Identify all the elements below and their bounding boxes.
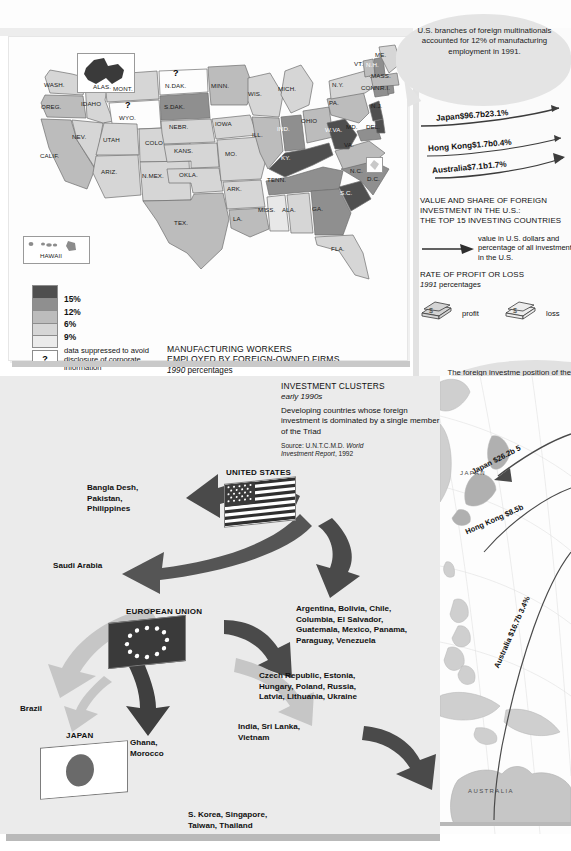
state-label-conn: CONN.: [361, 84, 381, 91]
state-label-mich: MICH.: [278, 85, 296, 92]
state-miss: [267, 195, 289, 231]
state-label-okla: OKLA.: [179, 171, 198, 178]
clusters-heading: INVESTMENT CLUSTERS: [281, 381, 441, 391]
legend-swatches: [32, 285, 58, 348]
svg-text:$: $: [513, 307, 517, 314]
state-label-ky: KY.: [281, 154, 290, 161]
state-label-del: DEL.: [366, 123, 380, 130]
value-share-block: VALUE AND SHARE OF FOREIGN INVESTMENT IN…: [420, 196, 571, 270]
clusters-source-italic2: Investment Report: [281, 450, 335, 457]
state-label-ala: ALA.: [282, 206, 296, 213]
state-suppressed-ndak: ?: [173, 68, 179, 78]
key-arrow-icon: [422, 242, 476, 256]
profit-loss-year: 1991 percentages: [420, 280, 571, 289]
state-label-pa: PA.: [329, 99, 339, 106]
state-label-wva: W.VA.: [325, 126, 342, 133]
map-caption-year: 1990 percentages: [167, 365, 397, 376]
flow-value-australia: $7.1b: [467, 161, 489, 172]
state-label-wis: WIS.: [248, 90, 262, 97]
loss-label: loss: [546, 309, 560, 318]
svg-text:$: $: [429, 307, 433, 314]
state-label-dc: D.C.: [367, 175, 380, 182]
profit-loss-heading: RATE OF PROFIT OR LOSS: [420, 270, 571, 279]
state-label-miss: MISS.: [258, 206, 275, 213]
us-map-graphic: ALAS. HAWAII: [9, 37, 409, 307]
dest-south-asia: India, Sri Lanka,Vietnam: [238, 722, 300, 743]
profit-loss-key-row: $ profit $ loss: [420, 299, 571, 329]
legend-swatch-12: [32, 298, 58, 311]
flow-share-hongkong: 0.4%: [493, 138, 512, 148]
state-label-mont: MONT.: [113, 85, 133, 92]
state-label-wyo: WYO.: [119, 114, 136, 121]
state-label-nc: N.C.: [350, 167, 363, 174]
suppressed-legend-text: data suppressed to avoid disclosure of c…: [64, 347, 169, 373]
legend-labels: 15% 12% 6% 9%: [64, 293, 81, 343]
map-caption-line1: MANUFACTURING WORKERS: [167, 344, 397, 354]
state-label-calif: CALIF.: [40, 152, 59, 159]
state-label-nh: N.H.: [366, 61, 379, 68]
us-flag-graphic: [225, 477, 295, 526]
state-label-me: ME.: [375, 51, 386, 58]
state-label-hawaii: HAWAII: [40, 252, 62, 259]
clusters-period: early 1990s: [281, 392, 441, 401]
us-map-panel: ALAS. HAWAII: [8, 36, 408, 361]
flow-value-hongkong: $1.7b: [472, 139, 494, 150]
arrow-us-to-saudi: [122, 514, 312, 594]
value-share-line1: VALUE AND SHARE OF FOREIGN: [420, 196, 571, 206]
state-label-utah: UTAH: [103, 136, 120, 143]
node-title-japan: JAPAN: [66, 731, 94, 740]
legend-label-1: 12%: [64, 306, 81, 319]
state-label-nmex: N.MEX.: [142, 172, 164, 179]
state-label-sdak: S.DAK.: [164, 103, 185, 110]
node-title-united-states: UNITED STATES: [226, 468, 291, 477]
legend-swatch-15: [32, 285, 58, 298]
legend-label-3: 9%: [64, 331, 81, 344]
dc-shape: [367, 158, 382, 172]
dest-east-asia: S. Korea, Singapore,Taiwan, Thailand: [188, 810, 267, 831]
flow-arrow-australia-head: [553, 153, 565, 164]
state-ala: [287, 193, 313, 233]
flow-arrow-japan-head: [551, 105, 559, 112]
state-label-la: LA.: [233, 215, 243, 222]
value-share-line3: THE TOP 15 INVESTING COUNTRIES: [420, 216, 571, 226]
us-flag: [224, 476, 296, 528]
state-suppressed-wyo: ?: [125, 100, 131, 110]
clusters-source-prefix: Source: U.N.T.C.M.D.: [281, 442, 346, 449]
asia-map-svg: [440, 376, 571, 834]
state-label-kans: KANS.: [174, 147, 193, 154]
state-label-fla: FLA.: [331, 245, 344, 252]
speech-bubble-top-text: U.S. branches of foreign multinationals …: [402, 26, 567, 57]
dest-bangladesh: Bangla Desh,Pakistan,Philippines: [87, 483, 138, 515]
legend-swatch-9: [32, 323, 58, 336]
map-caption-year-value: 1990: [167, 366, 185, 375]
state-label-sc: S.C.: [340, 189, 352, 196]
state-label-md: MD.: [346, 123, 358, 130]
state-label-minn: MINN.: [211, 82, 229, 89]
state-label-oreg: OREG.: [41, 103, 61, 110]
state-iowa: [212, 115, 257, 139]
asia-label-australia: AUSTRALIA: [468, 788, 514, 794]
state-label-wash: WASH.: [44, 81, 65, 88]
state-label-alas: ALAS.: [93, 83, 111, 90]
profit-loss-block: RATE OF PROFIT OR LOSS 1991 percentages …: [420, 270, 571, 329]
state-label-tenn: TENN.: [267, 176, 286, 183]
state-tex: [143, 193, 229, 269]
dest-brazil: Brazil: [20, 704, 42, 715]
state-label-ariz: ARIZ.: [101, 168, 117, 175]
state-fla: [315, 235, 369, 279]
flow-share-australia: 1.7%: [488, 160, 507, 171]
legend-label-2: 6%: [64, 318, 81, 331]
clusters-source-italic1: World: [346, 442, 363, 449]
infographic-page: ALAS. HAWAII: [0, 0, 571, 851]
state-label-iowa: IOWA: [215, 120, 232, 127]
japan-flag: [40, 740, 128, 800]
arrow-us-to-latam: [316, 518, 360, 598]
map-panel-shadow: [12, 361, 410, 367]
state-ariz: [93, 155, 141, 198]
state-label-ohio: OHIO: [301, 117, 317, 124]
value-share-key: value in U.S. dollars and percentage of …: [420, 234, 571, 270]
dest-eastern-europe: Czech Republic, Estonia,Hungary, Poland,…: [259, 671, 357, 703]
state-label-colo: COLO.: [145, 139, 165, 146]
dest-saudi-arabia: Saudi Arabia: [53, 561, 102, 572]
state-label-ga: GA.: [312, 205, 323, 212]
